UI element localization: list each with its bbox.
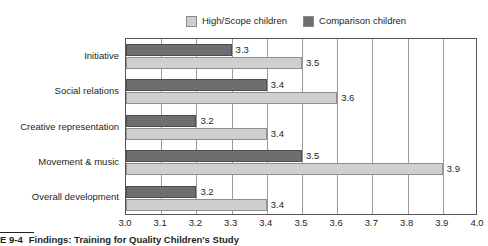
x-tick-label: 3.3 bbox=[224, 217, 237, 229]
bar-comparison bbox=[126, 150, 302, 162]
x-tick-label: 3.9 bbox=[435, 217, 448, 229]
category-label-creative-representation: Creative representation bbox=[0, 121, 119, 132]
legend-label-comparison-children: Comparison children bbox=[319, 16, 406, 26]
bar-group-overall-development: 3.2 3.4 bbox=[126, 181, 476, 216]
plot-area: 3.3 3.5 3.4 3.6 bbox=[125, 38, 477, 215]
bar-comparison bbox=[126, 186, 196, 198]
category-label-initiative: Initiative bbox=[0, 50, 119, 61]
x-tick-label: 3.2 bbox=[189, 217, 202, 229]
caption-number: E 9-4 bbox=[0, 234, 23, 245]
bar-value-comparison: 3.2 bbox=[200, 114, 213, 127]
x-axis-tick-labels: 3.03.13.23.33.43.53.63.73.83.94.0 bbox=[125, 217, 477, 231]
bar-high-scope bbox=[126, 128, 267, 140]
legend-swatch-dark-icon bbox=[303, 16, 314, 27]
figure-bar-chart: High/Scope children Comparison children … bbox=[0, 0, 488, 246]
bar-high-scope bbox=[126, 57, 302, 69]
legend-label-high-scope-children: High/Scope children bbox=[202, 16, 287, 26]
chart-legend: High/Scope children Comparison children bbox=[186, 14, 406, 28]
bar-high-scope bbox=[126, 163, 443, 175]
bar-value-comparison: 3.5 bbox=[306, 149, 319, 162]
category-axis-labels: Initiative Social relations Creative rep… bbox=[0, 38, 119, 215]
caption-text: Findings: Training for Quality Children'… bbox=[29, 234, 239, 245]
x-tick-label: 3.8 bbox=[400, 217, 413, 229]
bar-group-movement-music: 3.5 3.9 bbox=[126, 145, 476, 180]
x-tick-label: 3.0 bbox=[118, 217, 131, 229]
category-label-movement-music: Movement & music bbox=[0, 156, 119, 167]
legend-item-comparison-children: Comparison children bbox=[303, 16, 406, 27]
x-tick-label: 4.0 bbox=[470, 217, 483, 229]
bar-value-comparison: 3.3 bbox=[236, 43, 249, 56]
bar-value-high-scope: 3.4 bbox=[271, 127, 284, 140]
bar-group-social-relations: 3.4 3.6 bbox=[126, 74, 476, 109]
category-label-social-relations: Social relations bbox=[0, 85, 119, 96]
x-tick-label: 3.4 bbox=[259, 217, 272, 229]
x-tick-label: 3.5 bbox=[294, 217, 307, 229]
bar-value-high-scope: 3.6 bbox=[341, 91, 354, 104]
bar-value-high-scope: 3.5 bbox=[306, 56, 319, 69]
bar-comparison bbox=[126, 44, 232, 56]
category-label-overall-development: Overall development bbox=[0, 191, 119, 202]
bar-high-scope bbox=[126, 199, 267, 211]
bar-high-scope bbox=[126, 92, 337, 104]
legend-item-high-scope-children: High/Scope children bbox=[186, 16, 287, 27]
bar-comparison bbox=[126, 115, 196, 127]
legend-swatch-light-icon bbox=[186, 16, 197, 27]
bar-value-comparison: 3.4 bbox=[271, 78, 284, 91]
bar-group-creative-representation: 3.2 3.4 bbox=[126, 110, 476, 145]
bar-comparison bbox=[126, 79, 267, 91]
x-tick-label: 3.6 bbox=[330, 217, 343, 229]
bar-groups: 3.3 3.5 3.4 3.6 bbox=[126, 39, 476, 214]
caption-rule bbox=[0, 232, 34, 233]
bar-value-high-scope: 3.4 bbox=[271, 198, 284, 211]
x-tick-label: 3.1 bbox=[154, 217, 167, 229]
bar-value-high-scope: 3.9 bbox=[447, 162, 460, 175]
figure-caption: E 9-4Findings: Training for Quality Chil… bbox=[0, 234, 488, 246]
bar-value-comparison: 3.2 bbox=[200, 185, 213, 198]
x-tick-label: 3.7 bbox=[365, 217, 378, 229]
bar-group-initiative: 3.3 3.5 bbox=[126, 39, 476, 74]
